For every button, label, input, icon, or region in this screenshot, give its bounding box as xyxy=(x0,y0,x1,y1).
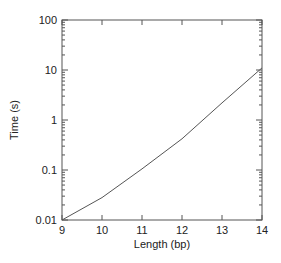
y-tick-label: 0.01 xyxy=(36,214,57,226)
x-tick-label: 9 xyxy=(59,224,65,236)
x-tick-label: 12 xyxy=(176,224,188,236)
y-tick-label: 1 xyxy=(51,114,57,126)
line-chart: 910111213140.010.1110100 Time (s) Length… xyxy=(0,0,281,263)
y-tick-label: 100 xyxy=(39,14,57,26)
y-tick-label: 10 xyxy=(45,64,57,76)
x-tick-label: 14 xyxy=(256,224,268,236)
data-line xyxy=(62,68,262,220)
x-tick-label: 13 xyxy=(216,224,228,236)
y-tick-label: 0.1 xyxy=(42,164,57,176)
x-tick-label: 11 xyxy=(136,224,147,236)
plot-area: 910111213140.010.1110100 xyxy=(36,14,269,236)
x-axis-label: Length (bp) xyxy=(134,238,190,250)
x-tick-label: 10 xyxy=(96,224,108,236)
y-axis-label: Time (s) xyxy=(8,100,20,140)
plot-frame xyxy=(62,20,262,220)
